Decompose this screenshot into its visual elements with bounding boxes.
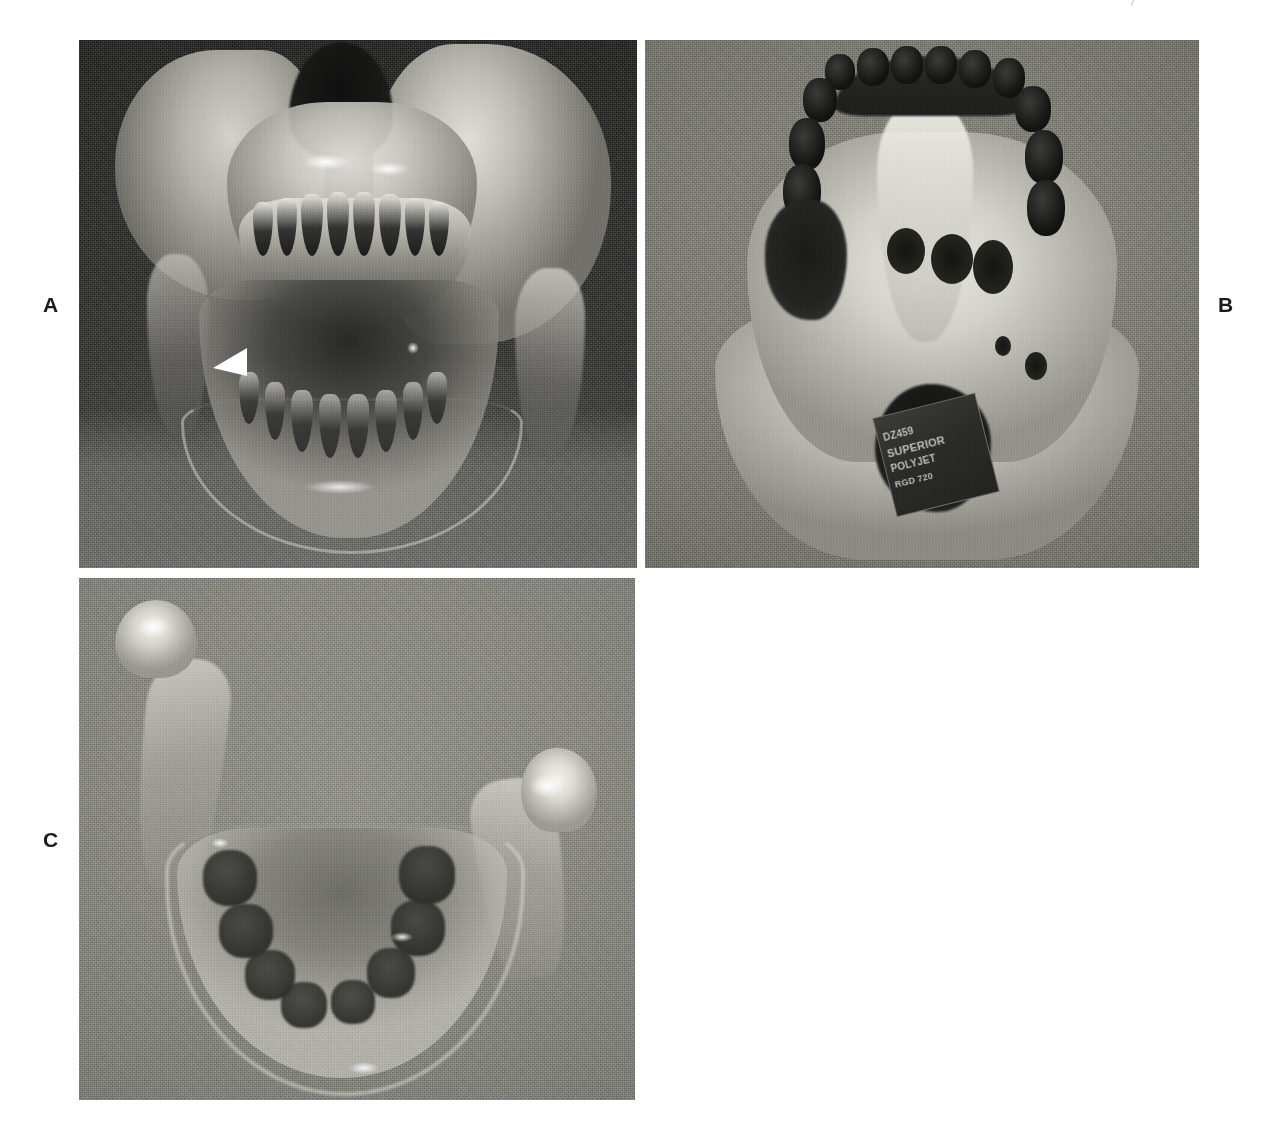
panel-c-left-condyle: [115, 600, 197, 678]
panel-b-foramen-5: [1025, 352, 1047, 380]
figure-root: DZ459 SUPERIOR POLYJET RGD 720: [0, 0, 1279, 1131]
panel-a-image: [79, 40, 637, 568]
print-label-line-1: DZ459: [882, 426, 915, 443]
panel-c-specular-highlight-5: [349, 1062, 379, 1074]
running-head-slash: [1131, 0, 1136, 6]
panel-c-image: [79, 578, 635, 1100]
running-head-artifact: [1100, 0, 1279, 12]
panel-b-skull-base-model: DZ459 SUPERIOR POLYJET RGD 720: [707, 52, 1147, 562]
print-label-line-4: RGD 720: [894, 471, 934, 490]
panel-a-skull-model: [107, 42, 607, 562]
panel-c-mandible-model: [99, 588, 619, 1093]
panel-b-foramen-3: [973, 240, 1013, 294]
panel-c-specular-highlight-4: [391, 932, 413, 942]
panel-a-right-ramus: [515, 268, 585, 454]
panel-a-specular-highlight-3: [305, 480, 375, 494]
panel-a-photo: [79, 40, 637, 568]
panel-c-specular-highlight-1: [137, 616, 171, 638]
panel-b-foramen-2: [931, 234, 973, 284]
panel-label-a: A: [43, 294, 58, 315]
panel-c-specular-highlight-3: [211, 838, 229, 848]
panel-c-photo: [79, 578, 635, 1100]
panel-label-c: C: [43, 829, 58, 850]
panel-a-specular-highlight-4: [407, 342, 419, 354]
panel-label-b: B: [1218, 294, 1233, 315]
panel-b-foramen-1: [887, 228, 925, 274]
panel-c-specular-highlight-2: [529, 774, 565, 798]
panel-b-image: DZ459 SUPERIOR POLYJET RGD 720: [645, 40, 1199, 568]
panel-a-specular-highlight-1: [303, 154, 349, 170]
panel-b-left-orbital-fissure: [765, 200, 847, 320]
panel-a-specular-highlight-2: [369, 162, 409, 176]
panel-b-foramen-4: [995, 336, 1011, 356]
panel-b-photo: DZ459 SUPERIOR POLYJET RGD 720: [645, 40, 1199, 568]
panel-a-arrow-marker-icon: [209, 342, 251, 384]
